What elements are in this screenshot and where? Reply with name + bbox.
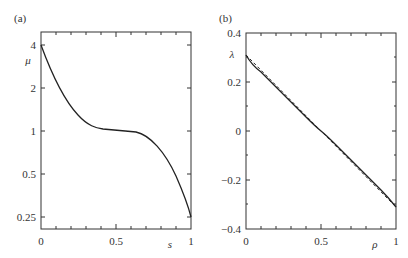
panel-b-ytick-0.2: 0.2 [227,76,241,88]
panel-a-ytick-1: 1 [31,125,37,137]
panel-a-xlabel: s [168,238,172,250]
panel-b-xtick-1: 1 [393,235,399,247]
panel-b-xtick-0.5: 0.5 [314,235,328,247]
panel-a-tag: (a) [14,12,27,25]
panel-b-ytick-neg0.2: −0.2 [221,174,241,186]
panel-a-ytick-2: 2 [31,82,37,94]
panel-a-xtick-0.5: 0.5 [109,235,123,247]
panel-a-y-ticks [41,45,191,217]
panel-b-xlabel: ρ [371,238,377,250]
figure: (a) 4 μ 2 1 0.5 0.25 [0,0,408,258]
panel-b-ylabel: λ [229,48,235,60]
panel-a-ylabel: μ [24,54,31,66]
panel-b-xtick-0: 0 [243,235,249,247]
panel-a-xtick-0: 0 [38,235,44,247]
panel-a: (a) 4 μ 2 1 0.5 0.25 [14,12,194,250]
panel-b-ytick-neg0.4: −0.4 [221,223,241,235]
panel-a-ytick-0.25: 0.25 [17,211,37,223]
panel-a-ytick-4: 4 [31,39,37,51]
panel-b: (b) 0.4 λ 0.2 0 −0. [219,12,399,250]
panel-b-tag: (b) [219,12,232,25]
panel-a-xtick-1: 1 [188,235,194,247]
panel-a-curve [41,45,191,217]
panel-a-ytick-0.5: 0.5 [22,168,36,180]
panel-b-ytick-0: 0 [236,125,242,137]
panel-b-ytick-0.4: 0.4 [227,27,241,39]
